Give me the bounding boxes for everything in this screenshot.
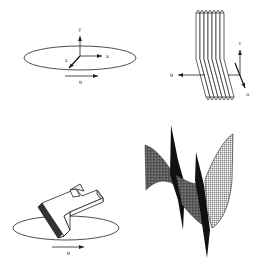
slice-edge — [212, 10, 216, 13]
slice-edge — [226, 97, 230, 100]
slice-edge — [206, 97, 210, 100]
mesh-surface-right — [205, 134, 233, 228]
slice-edge — [214, 97, 218, 100]
figure-canvas: y x z θ θ v u — [0, 0, 256, 268]
x-axis-label: x — [106, 53, 109, 59]
slice-edge — [208, 10, 212, 13]
panel-bottom-right — [145, 125, 233, 258]
z-axis-label: z — [65, 57, 68, 63]
panel-bottom-left: θ — [13, 184, 119, 256]
panel-top-left: y x z θ — [24, 26, 136, 85]
slice-edge — [210, 97, 214, 100]
panel-top-right: θ v u — [170, 10, 250, 100]
z-axis-arrow — [69, 56, 80, 68]
rotation-label: θ — [67, 250, 70, 256]
l-shaped-object — [38, 184, 103, 238]
u-axis-label: u — [246, 91, 250, 97]
slice-edge — [218, 97, 222, 100]
slice-edge — [220, 10, 224, 13]
slice-edge — [230, 97, 234, 100]
rotation-label: θ — [79, 79, 82, 85]
slice-edge — [222, 97, 226, 100]
slice-edge — [216, 10, 220, 13]
slice-stack — [196, 10, 234, 100]
slice-edge — [196, 10, 200, 13]
slice-edge — [204, 10, 208, 13]
theta-axis-label: θ — [170, 72, 173, 78]
v-axis-label: v — [238, 40, 242, 46]
y-axis-label: y — [78, 26, 82, 33]
slice-edge — [200, 10, 204, 13]
